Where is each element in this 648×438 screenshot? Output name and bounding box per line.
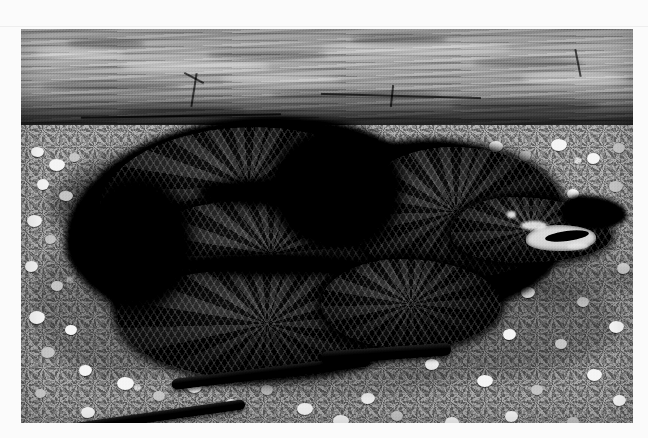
wood-knot [473, 59, 583, 67]
snake-shadow-void [181, 253, 361, 275]
wood-highlight [521, 73, 629, 85]
snake-lip-highlight [521, 221, 547, 230]
pebble [333, 415, 349, 423]
snake-eye-highlight [507, 211, 516, 218]
head-cast-shadow [473, 255, 633, 299]
wood-knot [207, 51, 327, 59]
pebble [445, 417, 459, 423]
snake-shadow-void [81, 179, 191, 309]
wood-highlight [121, 61, 271, 72]
black-rat-snake-photograph [21, 29, 633, 423]
scan-artifact-line [0, 26, 648, 27]
wood-knot [41, 83, 181, 90]
snake-shadow-void [197, 179, 347, 205]
wood-highlight [321, 43, 511, 53]
wood-highlight [221, 75, 341, 84]
page-root [0, 0, 648, 438]
snake-jaw-highlight [567, 243, 589, 250]
wood-knot [67, 39, 145, 48]
wood-highlight [35, 49, 125, 58]
tail-cast-shadow [221, 365, 451, 395]
wood-knot [451, 101, 601, 110]
pebble [567, 417, 579, 423]
